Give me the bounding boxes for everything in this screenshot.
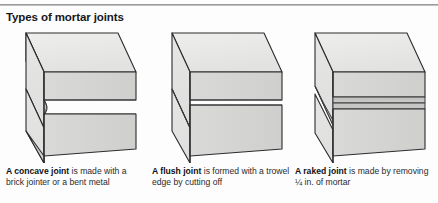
concave-mortar-joint-brick-diagram (6, 30, 152, 163)
caption-concave-term: A concave joint (6, 166, 69, 176)
caption-row: A concave joint is made with a brick joi… (0, 166, 438, 203)
caption-concave: A concave joint is made with a brick joi… (6, 166, 146, 189)
figure-title: Types of mortar joints (6, 11, 124, 23)
mortar-joints-figure: Types of mortar joints (0, 0, 438, 203)
concave-brick-svg (6, 30, 152, 163)
flush-mortar-joint-brick-diagram (152, 30, 298, 163)
raked-mortar-joint-brick-diagram (295, 30, 438, 163)
caption-raked: A raked joint is made by removing ¼ in. … (295, 166, 435, 189)
brick-illustrations-row (0, 30, 438, 163)
caption-raked-term: A raked joint (295, 166, 347, 176)
caption-flush-term: A flush joint (152, 166, 201, 176)
flush-brick-svg (152, 30, 298, 163)
raked-brick-svg (295, 30, 438, 163)
caption-flush: A flush joint is formed with a trowel ed… (152, 166, 292, 189)
top-divider-rule (0, 4, 438, 6)
